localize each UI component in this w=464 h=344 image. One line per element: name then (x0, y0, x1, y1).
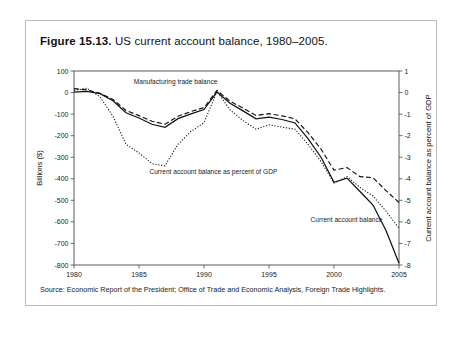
source-note: Source: Economic Report of the President… (40, 285, 385, 294)
y-tick-label: -700 (54, 240, 68, 247)
y2-tick-label: -1 (405, 111, 411, 118)
x-tick-label: 1980 (66, 271, 82, 278)
y-tick-label: -100 (54, 111, 68, 118)
series-annotation-1: Current account balance as percent of GD… (149, 168, 278, 176)
figure-container: Figure 15.13. US current account balance… (25, 20, 437, 306)
y-tick-label: -200 (54, 132, 68, 139)
y2-tick-label: -6 (405, 218, 411, 225)
y-axis-title: Billions ($) (35, 150, 44, 186)
y-tick-label: 100 (57, 68, 69, 75)
y2-tick-label: -7 (405, 240, 411, 247)
chart-series (74, 88, 399, 263)
y-tick-label: -600 (54, 218, 68, 225)
chart-annotations: Manufacturing trade balanceCurrent accou… (134, 78, 383, 223)
y2-tick-label: 1 (405, 68, 409, 75)
x-tick-label: 1985 (131, 271, 147, 278)
y2-tick-label: -3 (405, 154, 411, 161)
y2-tick-label: -2 (405, 132, 411, 139)
y-tick-label: -400 (54, 175, 68, 182)
x-tick-label: 1990 (196, 271, 212, 278)
y2-tick-label: -4 (405, 175, 411, 182)
x-tick-label: 2005 (391, 271, 407, 278)
y2-axis-title: Current account balance as percent of GD… (424, 94, 433, 241)
series-annotation-2: Current account balance (311, 216, 383, 223)
y-tick-label: -300 (54, 154, 68, 161)
y-tick-label: -800 (54, 262, 68, 269)
series-annotation-0: Manufacturing trade balance (134, 78, 218, 86)
chart-canvas: 1000-100-200-300-400-500-600-700-80010-1… (26, 21, 438, 307)
series-line-0 (74, 91, 399, 263)
y2-tick-label: -5 (405, 197, 411, 204)
x-tick-label: 2000 (326, 271, 342, 278)
y-tick-label: -500 (54, 197, 68, 204)
x-tick-label: 1995 (261, 271, 277, 278)
y2-tick-label: 0 (405, 89, 409, 96)
series-line-1 (74, 89, 399, 203)
y2-tick-label: -8 (405, 262, 411, 269)
y-tick-label: 0 (65, 89, 69, 96)
